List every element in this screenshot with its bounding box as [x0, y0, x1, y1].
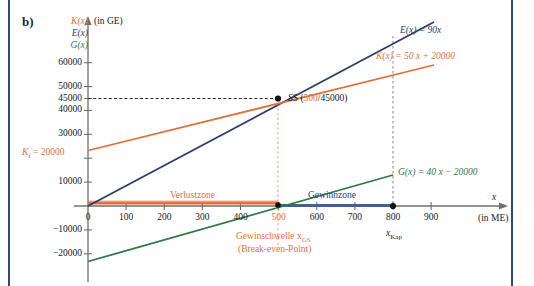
intersection-close: ) — [344, 93, 347, 103]
series-line-cost — [88, 65, 434, 151]
x-axis-arrow — [499, 202, 508, 209]
capacity-label: xKap — [386, 228, 402, 241]
fixed-cost-value: = 20000 — [31, 147, 65, 157]
x-tick-label: 300 — [182, 212, 222, 222]
yaxis-name-E: E(x) — [44, 28, 88, 38]
capacity-subscript: Kap — [390, 233, 402, 241]
series-label-revenue: E(x) = 90x — [400, 25, 441, 35]
breakeven-text: Gewinschwelle x — [236, 231, 302, 241]
intersection-label: SS (500/45000) — [288, 93, 347, 103]
capacity-point — [390, 203, 396, 209]
x-tick-label: 0 — [68, 212, 108, 222]
intersection-y: 45000 — [320, 93, 344, 103]
x-tick-label: 900 — [411, 212, 451, 222]
y-tick-label: 45000 — [20, 93, 82, 103]
figure-panel: b) K(x) E(x) G(x) (in GE) x (in ME) — [0, 0, 534, 286]
intersection-x: 500 — [304, 93, 318, 103]
x-tick-label: 500 — [259, 212, 299, 222]
tick-marks-group — [84, 63, 431, 254]
x-tick-label: 400 — [221, 212, 261, 222]
series-label-profit: G(x) = 40 x − 20000 — [398, 167, 478, 177]
yaxis-name-K: K(x) — [44, 16, 88, 26]
y-tick-label: −20000 — [20, 248, 82, 258]
y-tick-label: 60000 — [20, 57, 82, 67]
x-tick-label: 100 — [106, 212, 146, 222]
y-tick-label: 50000 — [20, 81, 82, 91]
profit-zone-label: Gewinnzone — [308, 190, 356, 200]
y-tick-label: 10000 — [20, 176, 82, 186]
loss-zone-label: Verlustzone — [170, 190, 215, 200]
breakeven-label-line1: Gewinschwelle xGS — [236, 231, 311, 244]
intersection-point-S — [275, 95, 281, 101]
x-tick-label: 600 — [297, 212, 337, 222]
breakeven-point — [275, 202, 281, 208]
y-tick-label: −10000 — [20, 224, 82, 234]
breakeven-label-line2: (Break-even-Point) — [238, 244, 311, 254]
breakeven-subscript: GS — [302, 236, 311, 244]
fixed-cost-label: Kf = 20000 — [22, 147, 65, 160]
yaxis-name-G: G(x) — [44, 40, 88, 50]
xaxis-unit: (in ME) — [478, 213, 508, 223]
intersection-open: S ( — [293, 93, 304, 103]
y-tick-label: 40000 — [20, 104, 82, 114]
yaxis-unit: (in GE) — [94, 16, 123, 26]
series-label-cost: K(x) = 50 x + 20000 — [376, 51, 455, 61]
y-tick-label: 30000 — [20, 128, 82, 138]
x-tick-label: 800 — [373, 212, 413, 222]
x-tick-label: 200 — [144, 212, 184, 222]
x-tick-label: 700 — [335, 212, 375, 222]
xaxis-name: x — [492, 192, 496, 202]
